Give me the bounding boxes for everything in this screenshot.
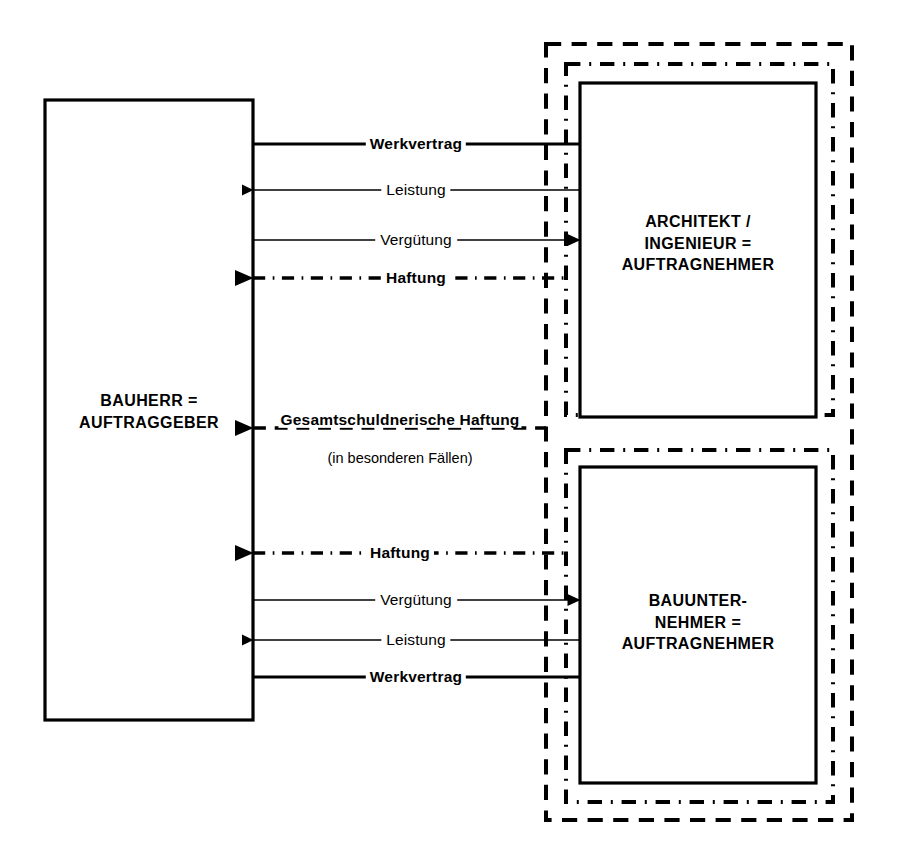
contractor-box-label: BAUUNTER- NEHMER = AUFTRAGNEHMER xyxy=(622,590,775,655)
flow-label-verguetung-bauunternehmer: Vergütung xyxy=(375,592,457,608)
client-box-label: BAUHERR = AUFTRAGGEBER xyxy=(79,390,219,433)
flow-label-gesamtschuldnerische-haftung: Gesamtschuldnerische Haftung xyxy=(274,412,525,428)
diagram-canvas: BAUHERR = AUFTRAGGEBER ARCHITEKT / INGEN… xyxy=(0,0,899,867)
flow-label-haftung-bauunternehmer: Haftung xyxy=(366,545,434,561)
flow-label-haftung-architekt: Haftung xyxy=(382,270,450,286)
flow-label-werkvertrag-architekt: Werkvertrag xyxy=(366,136,466,152)
flow-label-leistung-bauunternehmer: Leistung xyxy=(381,632,450,648)
flow-label-werkvertrag-bauunternehmer: Werkvertrag xyxy=(366,669,466,685)
flow-sublabel-gesamtschuldnerische-haftung: (in besonderen Fällen) xyxy=(327,451,472,466)
flow-label-verguetung-architekt: Vergütung xyxy=(375,232,457,248)
flow-label-leistung-architekt: Leistung xyxy=(381,182,450,198)
architect-box-label: ARCHITEKT / INGENIEUR = AUFTRAGNEHMER xyxy=(622,211,775,276)
